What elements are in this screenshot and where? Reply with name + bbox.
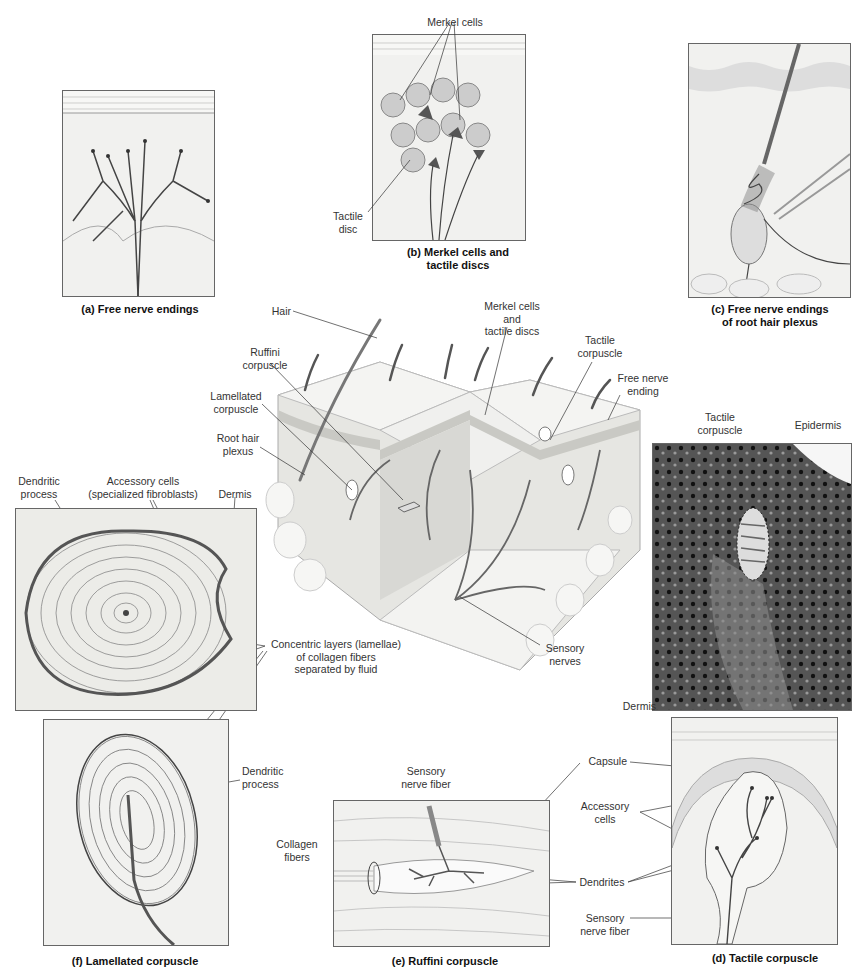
panel-ruffini-corpuscle — [333, 800, 550, 947]
panel-merkel-cells — [372, 34, 526, 241]
panel-root-hair-plexus — [688, 43, 851, 298]
label-collagen-fibers: Collagen fibers — [272, 838, 322, 863]
label-dermis-tactile-micrograph: Dermis — [612, 700, 656, 713]
label-dendritic-process-micrograph: Dendritic process — [12, 475, 66, 500]
label-sensory-nerve-fiber-e: Sensory nerve fiber — [394, 765, 458, 790]
panel-lamellated-corpuscle — [43, 719, 229, 946]
panel-free-nerve-endings — [62, 90, 215, 297]
lamellated-micrograph — [15, 508, 257, 711]
label-accessory-cells-fibroblasts: Accessory cells (specialized fibroblasts… — [84, 475, 202, 500]
free-nerve-endings-illustration — [63, 91, 214, 296]
caption-d: (d) Tactile corpuscle — [700, 952, 830, 965]
tactile-micrograph-image — [653, 444, 851, 710]
tactile-corpuscle-illustration — [672, 718, 837, 944]
lamellated-corpuscle-illustration — [44, 720, 228, 945]
lamellated-micrograph-image — [16, 509, 256, 710]
label-accessory-cells-d: Accessory cells — [575, 800, 635, 825]
label-sensory-nerve-fiber-d: Sensory nerve fiber — [575, 912, 635, 937]
panel-tactile-corpuscle — [671, 717, 838, 945]
caption-e: (e) Ruffini corpuscle — [380, 955, 510, 968]
tactile-micrograph — [652, 443, 852, 711]
merkel-cells-illustration — [373, 35, 525, 240]
label-lamellated-corpuscle: Lamellated corpuscle — [204, 390, 268, 415]
label-tactile-disc: Tactile disc — [326, 210, 370, 235]
label-merkel-cells-and-tactile-discs: Merkel cells and tactile discs — [480, 300, 544, 338]
caption-b: (b) Merkel cells and tactile discs — [388, 246, 528, 272]
label-capsule: Capsule — [575, 755, 627, 768]
label-hair: Hair — [255, 305, 291, 318]
label-tactile-corpuscle-micrograph: Tactile corpuscle — [690, 411, 750, 436]
ruffini-corpuscle-illustration — [334, 801, 549, 946]
label-dendrites: Dendrites — [576, 876, 628, 889]
label-dermis-micrograph: Dermis — [215, 488, 255, 501]
label-concentric-layers: Concentric layers (lamellae) of collagen… — [266, 638, 406, 676]
root-hair-plexus-illustration — [689, 44, 850, 297]
caption-f: (f) Lamellated corpuscle — [60, 955, 210, 968]
label-free-nerve-ending: Free nerve ending — [615, 372, 671, 397]
label-sensory-nerves: Sensory nerves — [540, 642, 590, 667]
label-ruffini-corpuscle: Ruffini corpuscle — [230, 346, 300, 371]
caption-c: (c) Free nerve endings of root hair plex… — [700, 303, 840, 329]
caption-a: (a) Free nerve endings — [80, 303, 200, 316]
label-epidermis: Epidermis — [790, 419, 846, 432]
label-dendritic-process-f: Dendritic process — [242, 765, 302, 790]
label-tactile-corpuscle: Tactile corpuscle — [570, 334, 630, 359]
label-root-hair-plexus: Root hair plexus — [210, 432, 266, 457]
label-merkel-cells: Merkel cells — [420, 16, 490, 29]
